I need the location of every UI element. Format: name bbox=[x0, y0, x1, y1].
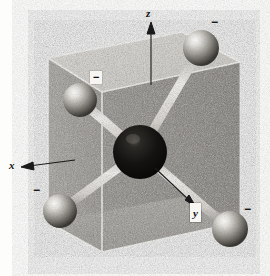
charge-lower-left: − bbox=[33, 184, 40, 196]
central-atom-highlight bbox=[126, 134, 140, 144]
axis-z-arrowhead bbox=[147, 22, 155, 34]
charge-top-right: − bbox=[211, 16, 218, 28]
charge-bottom-right: − bbox=[244, 203, 251, 215]
atom-lower-left bbox=[43, 194, 77, 228]
axis-label-z: z bbox=[146, 8, 150, 19]
tetrahedral-molecule-figure: z x y − − − − bbox=[0, 0, 270, 276]
charge-upper-left: − bbox=[90, 71, 102, 84]
axis-label-y: y bbox=[193, 207, 198, 219]
atom-upper-left bbox=[63, 83, 97, 117]
central-atom bbox=[113, 125, 167, 179]
axis-label-y-box: y bbox=[190, 203, 201, 222]
atom-top-right bbox=[183, 30, 219, 66]
axis-x-arrowhead bbox=[21, 162, 34, 170]
axis-label-x: x bbox=[9, 160, 15, 171]
atom-bottom-right bbox=[212, 211, 248, 247]
molecule-scene bbox=[0, 0, 270, 276]
